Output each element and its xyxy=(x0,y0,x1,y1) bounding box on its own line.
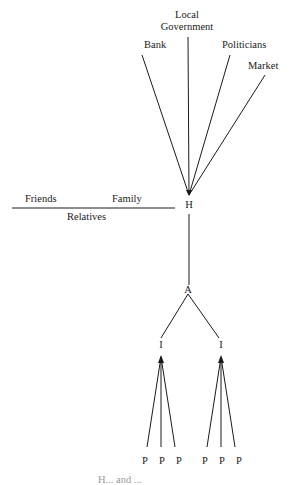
local-text: Local xyxy=(161,9,214,21)
h-arrowhead-icon xyxy=(186,190,192,196)
node-a: A xyxy=(184,284,192,296)
node-p: P xyxy=(202,455,208,467)
market-link-line xyxy=(189,75,265,195)
politicians-link-line xyxy=(189,55,230,195)
node-p: P xyxy=(219,455,225,467)
node-p: P xyxy=(159,455,165,467)
relatives-label: Relatives xyxy=(67,211,106,223)
i-right-to-p1-line xyxy=(207,357,221,447)
i-left-to-p1-line xyxy=(147,357,161,447)
a-to-i-left-line xyxy=(161,294,188,338)
friends-label: Friends xyxy=(25,193,57,205)
politicians-label: Politicians xyxy=(222,39,266,51)
node-p: P xyxy=(176,455,182,467)
i-right-arrowhead-icon xyxy=(218,355,224,363)
i-left-arrowhead-icon xyxy=(158,355,164,363)
node-i-left: I xyxy=(159,339,163,351)
i-left-to-p3-line xyxy=(161,357,175,447)
i-right-to-p3-line xyxy=(221,357,235,447)
node-i-right: I xyxy=(219,339,223,351)
bank-label: Bank xyxy=(144,39,166,51)
a-to-i-right-line xyxy=(188,294,219,338)
family-label: Family xyxy=(112,193,142,205)
government-text: Government xyxy=(161,21,214,33)
caption-partial: H... and ... xyxy=(98,474,142,485)
local-government-link-line xyxy=(188,37,189,195)
local-government-label: Local Government xyxy=(161,9,214,33)
bank-link-line xyxy=(142,55,189,195)
node-p: P xyxy=(236,455,242,467)
node-p: P xyxy=(142,455,148,467)
market-label: Market xyxy=(248,60,278,72)
node-h: H xyxy=(185,199,193,211)
